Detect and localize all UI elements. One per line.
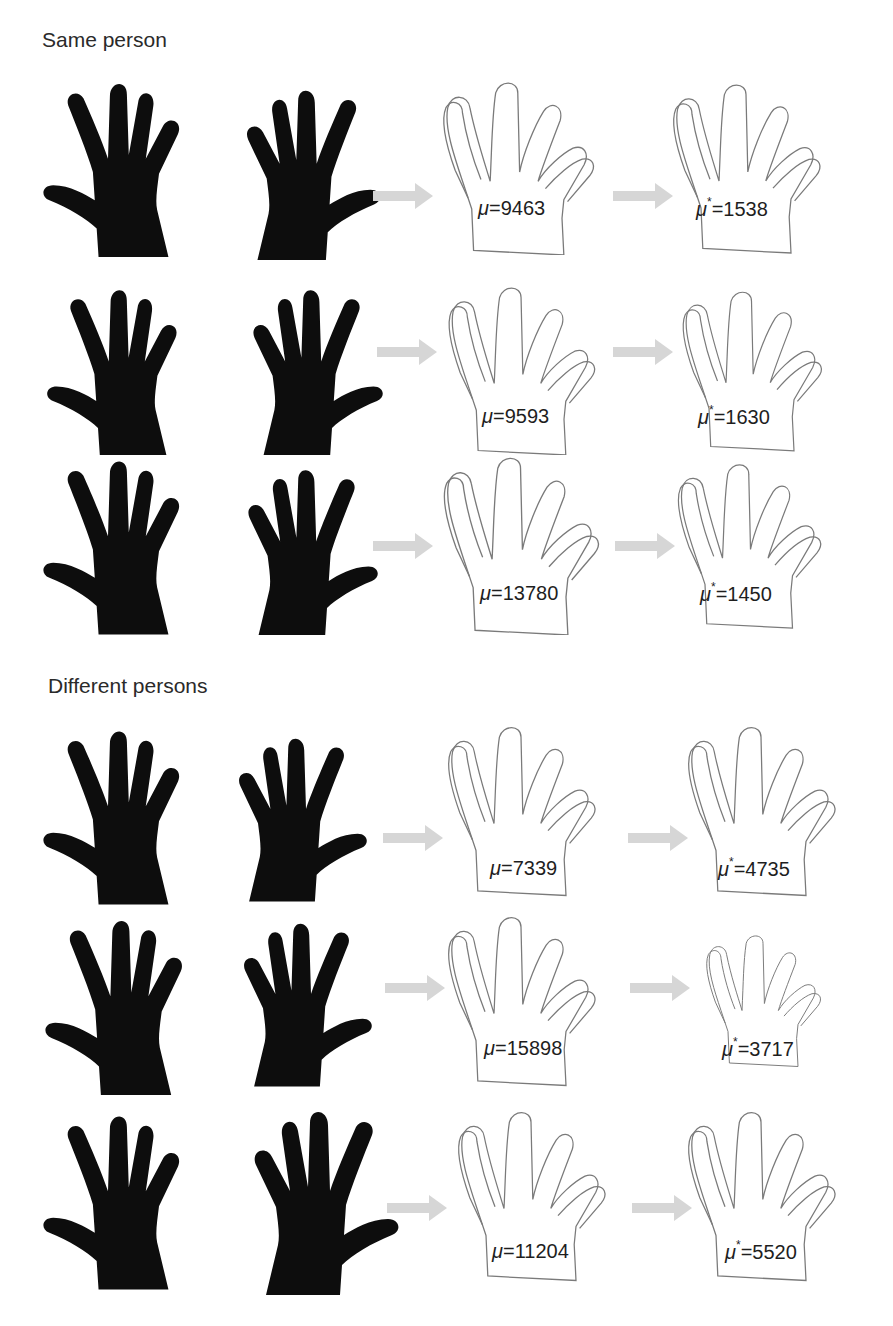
initial-distance-label: μ=11204: [492, 1240, 569, 1263]
initial-distance-label: μ=7339: [490, 857, 557, 880]
comparison-row: μ=9463 μ*=1538: [0, 60, 893, 260]
hand-silhouette-icon: [220, 275, 390, 455]
aligned-distance-label: μ*=1538: [696, 197, 768, 221]
hand-outline-aligned: [670, 455, 845, 635]
aligned-distance-label: μ*=3717: [722, 1037, 794, 1061]
hand-silhouette-icon: [215, 455, 385, 635]
hand-silhouette-icon: [40, 275, 210, 455]
comparison-row: μ=9593 μ*=1630: [0, 265, 893, 465]
hand-outline-aligned: [675, 285, 845, 455]
hand-silhouette-icon: [40, 445, 210, 635]
arrow-right-icon: [615, 533, 675, 559]
comparison-row: μ=11204 μ*=5520: [0, 1090, 893, 1290]
aligned-distance-label: μ*=1450: [700, 582, 772, 606]
hand-silhouette-icon: [40, 1095, 210, 1295]
arrow-right-icon: [613, 183, 673, 209]
hand-silhouette-icon: [40, 65, 210, 260]
initial-distance-label: μ=13780: [480, 582, 558, 605]
hand-outline-overlay: [440, 285, 620, 455]
hand-silhouette-icon: [40, 905, 215, 1095]
hand-outline-overlay: [435, 455, 625, 635]
hand-outline-overlay: [427, 80, 627, 255]
arrow-right-icon: [373, 183, 433, 209]
arrow-right-icon: [383, 825, 443, 851]
hand-outline-aligned: [665, 80, 845, 255]
arrow-right-icon: [387, 1195, 447, 1221]
aligned-distance-label: μ*=5520: [725, 1240, 797, 1264]
comparison-row: μ=7339 μ*=4735: [0, 705, 893, 905]
arrow-right-icon: [385, 975, 445, 1001]
section-title-same-person: Same person: [42, 28, 167, 52]
arrow-right-icon: [630, 975, 690, 1001]
hand-outline-overlay: [440, 905, 620, 1095]
arrow-right-icon: [377, 339, 437, 365]
comparison-row: μ=15898 μ*=3717: [0, 895, 893, 1095]
hand-silhouette-icon: [222, 1095, 402, 1295]
hand-silhouette-icon: [215, 75, 385, 260]
initial-distance-label: μ=15898: [484, 1037, 562, 1060]
initial-distance-label: μ=9593: [482, 405, 549, 428]
aligned-distance-label: μ*=4735: [718, 857, 790, 881]
initial-distance-label: μ=9463: [478, 197, 545, 220]
comparison-row: μ=13780 μ*=1450: [0, 440, 893, 640]
hand-silhouette-icon: [215, 900, 375, 1095]
hand-silhouette-icon: [40, 710, 210, 910]
aligned-distance-label: μ*=1630: [698, 405, 770, 429]
hand-silhouette-icon: [210, 720, 370, 905]
hand-outline-aligned: [700, 905, 840, 1095]
arrow-right-icon: [628, 825, 688, 851]
section-title-different-persons: Different persons: [48, 674, 208, 698]
arrow-right-icon: [373, 533, 433, 559]
arrow-right-icon: [613, 339, 673, 365]
